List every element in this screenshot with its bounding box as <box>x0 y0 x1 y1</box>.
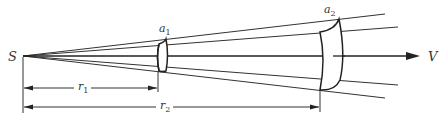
source-label: S <box>8 49 17 64</box>
surface-a1 <box>158 39 168 72</box>
r2-right-arrow-icon <box>310 105 319 110</box>
r1-label: r1 <box>78 80 88 95</box>
dimension-r2: r2 <box>24 99 319 114</box>
axis-end-label: V <box>428 49 439 64</box>
surface-a2 <box>320 19 343 90</box>
r2-label: r2 <box>160 99 170 114</box>
surface-1-label: a1 <box>159 22 171 37</box>
r1-right-arrow-icon <box>148 86 157 91</box>
r1-left-arrow-icon <box>24 86 33 91</box>
surface-2-label: a2 <box>324 3 336 18</box>
dimension-r1: r1 <box>24 80 157 95</box>
axis-arrowhead-icon <box>406 52 420 60</box>
r2-left-arrow-icon <box>24 105 33 110</box>
wavefront-diagram: S V a1 a2 r1 r2 <box>0 0 448 121</box>
